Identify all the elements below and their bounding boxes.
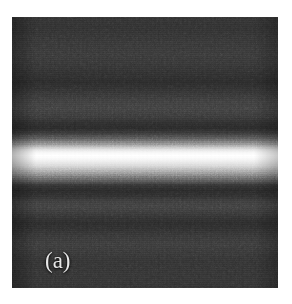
panel-label-a: (a) xyxy=(45,249,71,272)
interference-fringe-image: (a) xyxy=(12,17,278,288)
figure-page: (a) xyxy=(0,0,292,304)
